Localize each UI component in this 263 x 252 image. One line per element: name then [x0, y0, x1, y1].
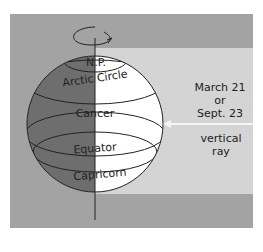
- label-cancer: Cancer: [70, 107, 120, 120]
- rotation-arrow-icon: [74, 27, 110, 45]
- vertical-ray-label: vertical ray: [190, 132, 252, 158]
- globe-diagram: [0, 0, 263, 252]
- date-label: March 21 or Sept. 23: [190, 81, 250, 120]
- date-line-1: March 21: [190, 81, 250, 94]
- date-line-3: Sept. 23: [190, 107, 250, 120]
- label-north-pole: N.P.: [82, 56, 110, 69]
- date-line-2: or: [190, 94, 250, 107]
